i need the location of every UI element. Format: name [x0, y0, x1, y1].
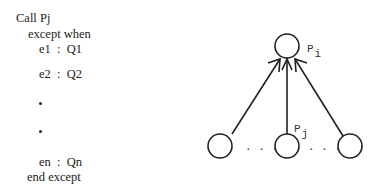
bottom-node-pj: [275, 134, 299, 158]
arrow-right: [295, 59, 343, 136]
label-pi: Pi: [307, 43, 322, 60]
process-diagram: Pi Pj . . . . . .: [0, 0, 376, 189]
top-node-pi: [275, 34, 299, 58]
bottom-node-left: [208, 134, 232, 158]
bottom-node-right: [338, 134, 362, 158]
dots-right: . . .: [308, 141, 341, 153]
dots-left: . . .: [245, 141, 278, 153]
arrow-left: [232, 59, 280, 134]
